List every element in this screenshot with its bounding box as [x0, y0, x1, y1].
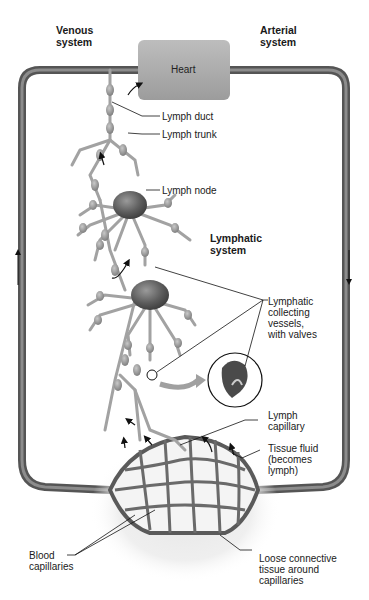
valve-highlight-circle — [147, 370, 157, 380]
collecting-vessels-label: Lymphatic collecting vessels, with valve… — [268, 296, 317, 340]
circulation-direction-arrows — [18, 250, 349, 285]
heart-label: Heart — [171, 64, 195, 75]
lymph-node-lower — [131, 280, 169, 310]
lymphatic-vessels — [72, 70, 195, 450]
tissue-fluid-label: Tissue fluid (becomes lymph) — [268, 443, 318, 476]
lymph-capillary-label: Lymph capillary — [268, 410, 305, 432]
valve-magnified — [208, 353, 262, 407]
lymph-node-label: Lymph node — [162, 185, 217, 196]
venous-system-label: Venous system — [56, 24, 93, 48]
magnify-arrow — [160, 380, 198, 387]
lymph-trunk-label: Lymph trunk — [162, 129, 217, 140]
lymphatic-system-label: Lymphatic system — [210, 232, 262, 256]
lymph-node-upper — [113, 191, 147, 219]
lymph-duct-label: Lymph duct — [162, 111, 213, 122]
arterial-system-label: Arterial system — [260, 24, 297, 48]
loose-connective-tissue-label: Loose connective tissue around capillari… — [259, 553, 337, 586]
blood-capillaries-label: Blood capillaries — [29, 550, 73, 572]
